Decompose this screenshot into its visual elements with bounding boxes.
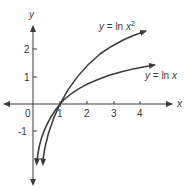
ln-x-squared-bottom-arrow-icon bbox=[40, 158, 46, 166]
x-axis bbox=[3, 101, 172, 107]
y-axis-bottom-arrow-icon bbox=[30, 179, 36, 186]
label-ln-x-squared: y = ln x2 bbox=[98, 20, 135, 32]
log-functions-plot: x y 0 1 2 3 4 2 1 -1 y = ln x2 y = ln x bbox=[0, 0, 187, 190]
x-axis-label: x bbox=[176, 98, 183, 109]
curve-ln-x-squared bbox=[43, 31, 147, 163]
label-ln-x: y = ln x bbox=[144, 70, 178, 81]
y-tick-2: 2 bbox=[24, 44, 30, 55]
x-tick-2: 2 bbox=[84, 108, 90, 119]
ln-x-bottom-arrow-icon bbox=[34, 158, 40, 166]
x-tick-3: 3 bbox=[111, 108, 117, 119]
x-tick-4: 4 bbox=[137, 108, 143, 119]
y-tick-neg1: -1 bbox=[18, 126, 27, 137]
y-axis-label: y bbox=[28, 9, 35, 20]
origin-label: 0 bbox=[25, 108, 31, 119]
x-axis-left-arrow-icon bbox=[3, 101, 10, 107]
y-tick-1: 1 bbox=[24, 72, 30, 83]
